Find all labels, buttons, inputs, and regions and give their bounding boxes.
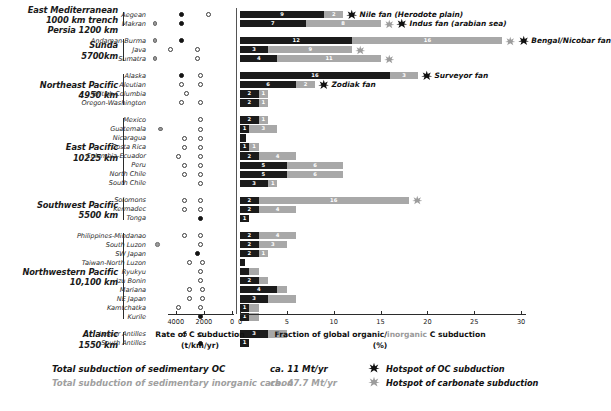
bar-segment-ic — [277, 286, 286, 293]
bar-value-oc: 12 — [240, 37, 352, 44]
bar-value-oc: 4 — [240, 286, 277, 293]
bar-row: 216 — [240, 197, 409, 204]
scatter-point — [198, 154, 203, 159]
margin-name: Tonga — [36, 214, 146, 222]
bar-segment-ic: 11 — [277, 55, 380, 62]
scatter-point — [182, 136, 187, 141]
bar-value-ic: 3 — [249, 125, 277, 132]
bar-row: 21 — [240, 90, 268, 97]
margin-name: Izu Bonin — [36, 277, 146, 285]
scatter-point — [182, 172, 187, 177]
bar-row: 24 — [240, 206, 296, 213]
bar-value-oc: 1 — [240, 339, 249, 346]
bar-segment-oc: 7 — [240, 20, 306, 27]
bar-value-ic — [249, 304, 258, 311]
scatter-point — [153, 38, 158, 43]
black-star-icon — [368, 362, 380, 374]
bar-value-ic: 6 — [287, 162, 343, 169]
right-axis-title: Fraction of global organic/inorganic C s… — [274, 330, 485, 339]
margin-name: Makran — [36, 20, 146, 28]
margin-name: Mariana — [36, 286, 146, 294]
black-star-icon — [518, 35, 530, 47]
bar-row: 411 — [240, 55, 381, 62]
bar-segment-ic: 16 — [259, 197, 409, 204]
bar-row: 78 — [240, 20, 381, 27]
bar-row: 3 — [240, 295, 296, 302]
bar-segment-oc: 2 — [240, 206, 259, 213]
bar-value-ic — [277, 286, 286, 293]
margin-name: South Chile — [36, 179, 146, 187]
scatter-point — [176, 154, 181, 159]
bar-segment-oc: 4 — [240, 286, 277, 293]
bar-annotation: Nile fan (Herodote plain) — [360, 11, 464, 19]
margin-name: Kurile — [36, 313, 146, 321]
bar-value-oc: 2 — [240, 99, 259, 106]
right-axis-title-part-inorganic: inorganic — [387, 330, 427, 339]
bar-value-ic: 6 — [287, 171, 343, 178]
scatter-point — [198, 172, 203, 177]
bar-value-ic: 4 — [259, 206, 296, 213]
bar-segment-ic: 1 — [249, 143, 258, 150]
scatter-point — [198, 136, 203, 141]
bar-segment-ic: 4 — [259, 206, 296, 213]
scatter-point — [198, 233, 203, 238]
bar-segment-ic: 3 — [249, 125, 277, 132]
scatter-point — [198, 278, 203, 283]
bar-value-oc: 2 — [240, 197, 259, 204]
bar-value-oc: 7 — [240, 20, 306, 27]
margin-name: Mexico — [36, 116, 146, 124]
right-axis-tick — [474, 311, 475, 314]
bar-row: 24 — [240, 152, 296, 159]
scatter-point — [198, 163, 203, 168]
margin-name: Andaman-Burma — [36, 37, 146, 45]
right-axis-tick-label: 15 — [376, 318, 384, 326]
bar-segment-oc: 5 — [240, 162, 287, 169]
bar-row: 4 — [240, 286, 287, 293]
right-axis-tick-label: 25 — [470, 318, 478, 326]
bar-row: 1 — [240, 304, 259, 311]
bar-segment-ic: 16 — [352, 37, 502, 44]
right-axis-tick-label: 30 — [517, 318, 525, 326]
bar-value-ic — [259, 277, 268, 284]
bar-row — [240, 134, 246, 141]
scatter-point — [198, 198, 203, 203]
bar-row: 56 — [240, 162, 343, 169]
bar-value-oc: 2 — [240, 250, 259, 257]
bar-segment-oc: 2 — [240, 197, 259, 204]
left-axis-title: Rate of C subduction — [155, 330, 244, 339]
right-axis-unit: (%) — [373, 341, 388, 350]
bar-value-oc: 3 — [240, 46, 268, 53]
bar-value-oc: 3 — [240, 295, 268, 302]
bar-value-ic: 1 — [249, 143, 258, 150]
scatter-point — [187, 296, 192, 301]
bar-value-ic: 8 — [306, 20, 381, 27]
legend-total-oc-text: Total subduction of sedimentary OC — [52, 364, 225, 374]
right-axis-tick — [381, 311, 382, 314]
bar-segment-ic: 1 — [259, 250, 268, 257]
bar-row: 2 — [240, 277, 268, 284]
bar-value-ic: 2 — [324, 11, 343, 18]
bar-value-oc: 2 — [240, 152, 259, 159]
left-axis-line — [168, 314, 234, 315]
bar-row: 92 — [240, 11, 343, 18]
margin-name: Costa Rica — [36, 143, 146, 151]
bar-value-ic — [268, 295, 296, 302]
bar-segment-oc: 2 — [240, 152, 259, 159]
right-axis-tick — [521, 311, 522, 314]
margin-name: Kamtchatka — [36, 304, 146, 312]
margin-name: Alaska — [36, 72, 146, 80]
bar-value-ic — [249, 268, 258, 275]
bar-segment-ic: 3 — [390, 72, 418, 79]
bar-segment-oc — [240, 134, 246, 141]
grey-star-icon — [384, 54, 395, 65]
margin-name: NE Japan — [36, 295, 146, 303]
bar-row — [240, 268, 259, 275]
bar-value-oc — [240, 259, 245, 266]
bar-annotation: Zodiak fan — [331, 81, 375, 89]
bar-value-oc: 4 — [240, 55, 277, 62]
margin-name: Aleutian — [36, 81, 146, 89]
bar-segment-ic: 6 — [287, 162, 343, 169]
margin-name: Sumatra — [36, 55, 146, 63]
scatter-point — [198, 269, 203, 274]
scatter-point — [155, 242, 160, 247]
